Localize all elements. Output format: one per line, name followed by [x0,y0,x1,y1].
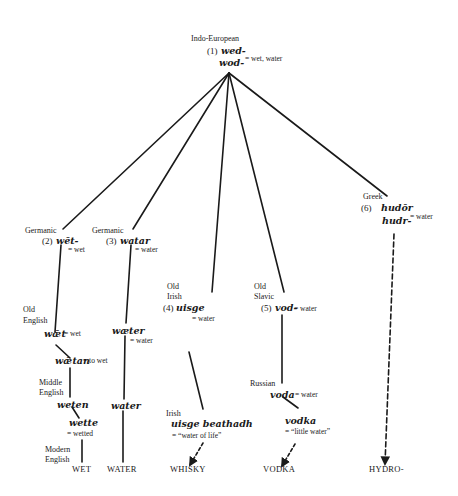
old-slavic-number: (5) [261,304,272,313]
old-irish-form: uisge [176,303,205,313]
germanic-wet-gloss: = wet [68,246,85,254]
irish-language: Irish [166,410,181,418]
russian-language: Russian [250,380,275,388]
old-irish-language-2: Irish [167,293,182,301]
result-vodka: VODKA [263,465,295,474]
oe-language-1: Old [23,306,35,314]
me-language-2: English [39,389,63,397]
root-form-1: wed- [221,46,246,56]
edge-oe-me-water [124,336,125,399]
root-gloss: = wet, water [245,55,282,63]
root-form-2: wod- [219,58,244,68]
oe-form: wǣt [44,329,66,339]
old-irish-number: (4) [163,304,174,313]
edge-irish-whisky [190,443,203,465]
oe-verb-gloss: = to wet [83,357,108,365]
me-pp-gloss: = wetted [67,430,93,438]
russian-gloss: = water [295,391,318,399]
root-number: (1) [207,47,218,56]
me-water-form: water [111,401,141,411]
edge-vodka-result [282,444,295,466]
greek-gloss: = water [410,213,433,221]
result-wet: WET [72,465,91,474]
greek-number: (6) [361,204,372,213]
germanic-water-language: Germanic [92,227,124,235]
edge-root-old-slavic [229,73,284,292]
greek-form-2: hudr- [382,216,411,226]
result-whisky: WHISKY [170,465,206,474]
edge-wet-oe [55,245,61,332]
edge-water-oe [126,245,131,323]
me-form: weten [57,400,89,410]
edge-root-old-irish [212,73,229,292]
greek-language: Greek [363,193,383,201]
germanic-water-number: (3) [106,237,117,246]
irish-form: uisge beathadh [171,419,253,429]
edge-root-germanic-wet [63,73,229,229]
root-language: Indo-European [191,35,239,43]
germanic-wet-language: Germanic [25,227,57,235]
oe-water-gloss: = water [130,337,153,345]
vodka-gloss: = “little water” [285,428,330,436]
old-slavic-gloss: = water [294,305,317,313]
russian-form: voda [270,390,295,400]
vodka-form: vodka [285,416,316,426]
me-pp-form: wette [69,418,98,428]
old-irish-gloss: = water [192,315,215,323]
edge-greek-hydro [385,234,394,464]
oe-language-2: English [23,317,47,325]
germanic-water-gloss: = water [135,246,158,254]
old-slavic-language-1: Old [254,283,266,291]
greek-form-1: hudōr [381,203,413,213]
old-slavic-language-2: Slavic [254,293,274,301]
edge-oir-irish [189,352,203,409]
modern-language-1: Modern [45,446,70,454]
irish-gloss: = “water of life” [172,432,221,440]
result-hydro: HYDRO- [369,465,404,474]
result-water: WATER [107,465,137,474]
modern-language-2: English [45,456,69,464]
oe-water-form: wæter [112,326,144,336]
oe-gloss: = wet [64,330,81,338]
me-language-1: Middle [39,379,62,387]
germanic-wet-number: (2) [42,237,53,246]
old-irish-language-1: Old [167,283,179,291]
edge-root-greek [229,73,387,196]
edge-root-germanic-water [133,73,229,229]
